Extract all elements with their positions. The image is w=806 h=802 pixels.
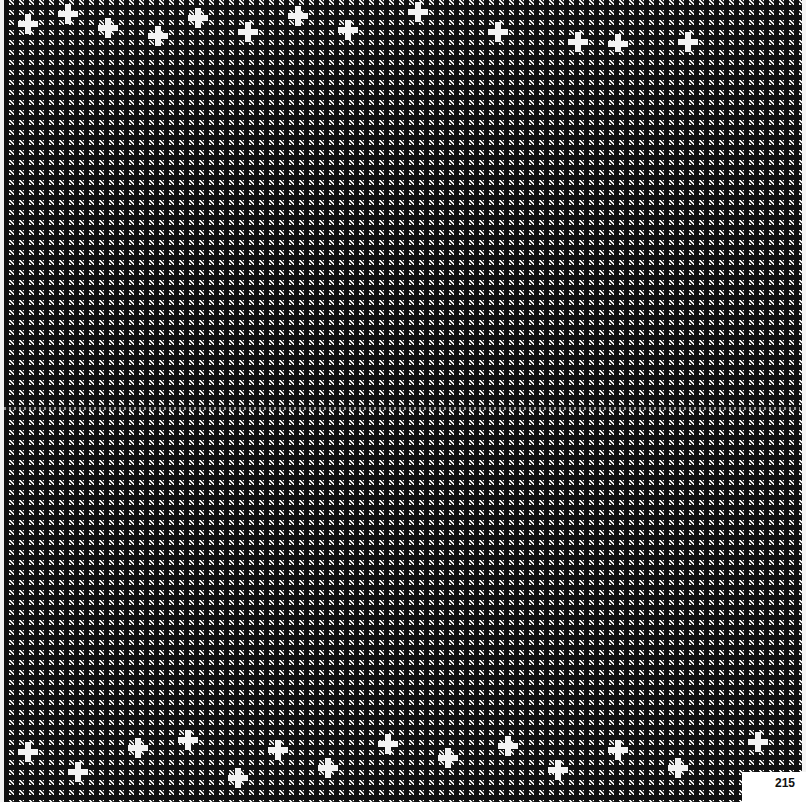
cross-motif bbox=[378, 734, 398, 754]
book-page: 215 bbox=[0, 0, 806, 802]
cross-motif bbox=[608, 34, 628, 52]
cross-motif bbox=[148, 26, 168, 46]
cross-motif bbox=[678, 32, 698, 52]
cross-motif bbox=[438, 748, 458, 768]
cross-motif bbox=[318, 758, 338, 778]
cross-motif bbox=[58, 4, 78, 24]
cross-motif bbox=[568, 32, 588, 52]
cross-motif bbox=[548, 760, 568, 780]
page-number: 215 bbox=[775, 776, 795, 790]
cross-motif bbox=[178, 730, 198, 750]
check-pattern-swatch bbox=[4, 0, 802, 802]
cross-motif bbox=[408, 2, 428, 22]
cross-motif bbox=[288, 6, 308, 26]
cross-motif bbox=[488, 22, 508, 42]
cross-motif bbox=[748, 732, 768, 752]
cross-motif bbox=[98, 18, 118, 38]
bottom-motif-band bbox=[0, 728, 806, 802]
cross-motif bbox=[128, 738, 148, 758]
cross-motif bbox=[338, 20, 358, 40]
cross-motif bbox=[18, 14, 38, 34]
cross-motif bbox=[238, 22, 258, 42]
cross-motif bbox=[228, 768, 248, 788]
cross-motif bbox=[608, 740, 628, 760]
fold-line bbox=[4, 407, 800, 410]
cross-motif bbox=[188, 8, 208, 28]
page-number-box bbox=[742, 772, 806, 802]
cross-motif bbox=[268, 740, 288, 760]
cross-motif bbox=[498, 736, 518, 756]
cross-motif bbox=[68, 762, 88, 782]
cross-motif bbox=[668, 758, 688, 778]
cross-motif bbox=[18, 742, 38, 762]
top-motif-band bbox=[0, 0, 806, 52]
